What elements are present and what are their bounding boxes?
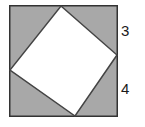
geometry-diagram xyxy=(0,0,145,127)
side-label-top-right: 3 xyxy=(121,23,129,38)
geometry-figure: 3 4 xyxy=(0,0,145,127)
side-label-bottom-right: 4 xyxy=(121,81,129,96)
